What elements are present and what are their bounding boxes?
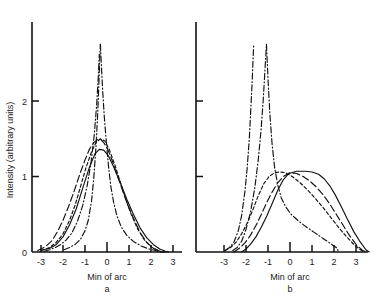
x-tick-label-b-0: 0 bbox=[287, 257, 292, 267]
x-tick-label-b--1: -1 bbox=[264, 257, 272, 267]
figure-container: 012Intensity (arbitrary units)-3-2-10123… bbox=[0, 0, 374, 303]
y-tick-label-2: 2 bbox=[22, 97, 27, 107]
panel-a: 012Intensity (arbitrary units)-3-2-10123… bbox=[5, 22, 182, 294]
x-tick-label-b-2: 2 bbox=[331, 257, 336, 267]
x-tick-label-b-1: 1 bbox=[309, 257, 314, 267]
x-tick-label-a-2: 2 bbox=[148, 257, 153, 267]
x-tick-label-a-3: 3 bbox=[170, 257, 175, 267]
panel-label-b: b bbox=[287, 284, 292, 294]
x-tick-label-b--3: -3 bbox=[220, 257, 228, 267]
x-tick-label-a-0: 0 bbox=[104, 257, 109, 267]
curve-a-dash-dot-narrow-right bbox=[100, 44, 164, 252]
x-tick-label-b--2: -2 bbox=[242, 257, 250, 267]
x-axis-title-a: Min of arc bbox=[87, 272, 127, 282]
panel-label-a: a bbox=[104, 284, 109, 294]
y-tick-label-0: 0 bbox=[22, 248, 27, 258]
x-tick-label-b-3: 3 bbox=[353, 257, 358, 267]
curve-b-dash-dot-spike-right-rise bbox=[233, 44, 267, 250]
curve-a-short-dash-peak bbox=[41, 139, 166, 252]
x-tick-label-a--2: -2 bbox=[59, 257, 67, 267]
panel-b: -3-2-10123Min of arcb bbox=[196, 22, 369, 294]
x-tick-label-a--1: -1 bbox=[81, 257, 89, 267]
y-tick-label-1: 1 bbox=[22, 172, 27, 182]
y-axis-title: Intensity (arbitrary units) bbox=[5, 102, 15, 199]
x-axis-title-b: Min of arc bbox=[270, 272, 310, 282]
curve-b-dash-dot-spike-left bbox=[225, 44, 254, 250]
intensity-profile-figure: 012Intensity (arbitrary units)-3-2-10123… bbox=[0, 0, 374, 303]
curve-b-dash-dot-decay-tail bbox=[266, 44, 338, 252]
x-tick-label-a-1: 1 bbox=[126, 257, 131, 267]
x-tick-label-a--3: -3 bbox=[37, 257, 45, 267]
